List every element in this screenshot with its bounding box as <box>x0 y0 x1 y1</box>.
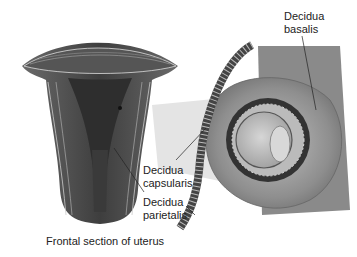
label-decidua-capsularis: Decidua capsularis <box>143 164 193 190</box>
implantation-site <box>118 106 122 110</box>
caption-frontal-section: Frontal section of uterus <box>46 235 164 248</box>
embryo <box>270 126 290 162</box>
label-decidua-basalis: Decidua basalis <box>284 10 324 36</box>
label-decidua-parietalis: Decidua parietalis <box>143 196 187 222</box>
